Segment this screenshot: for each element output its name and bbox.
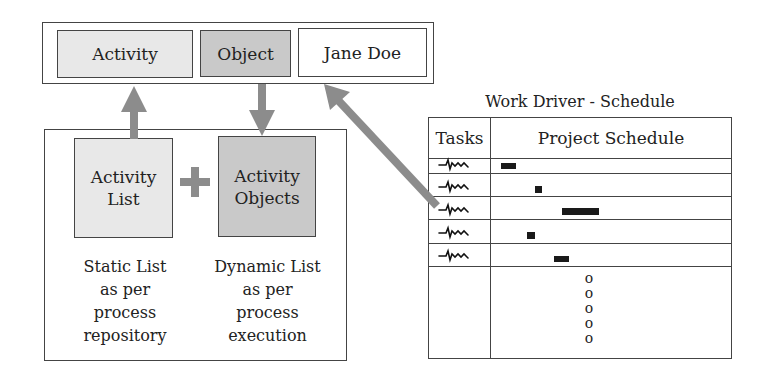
diagram-overlay	[0, 0, 769, 385]
task-scribble-icons	[439, 160, 468, 260]
arrow-up-icon	[121, 86, 147, 139]
scribble-icon	[439, 205, 468, 214]
scribble-icon	[439, 228, 468, 237]
arrow-down-icon	[249, 84, 275, 136]
plus-icon	[180, 167, 210, 197]
arrow-diagonal-icon	[324, 84, 437, 206]
scribble-icon	[439, 182, 468, 191]
scribble-icon	[439, 160, 468, 169]
scribble-icon	[439, 251, 468, 260]
